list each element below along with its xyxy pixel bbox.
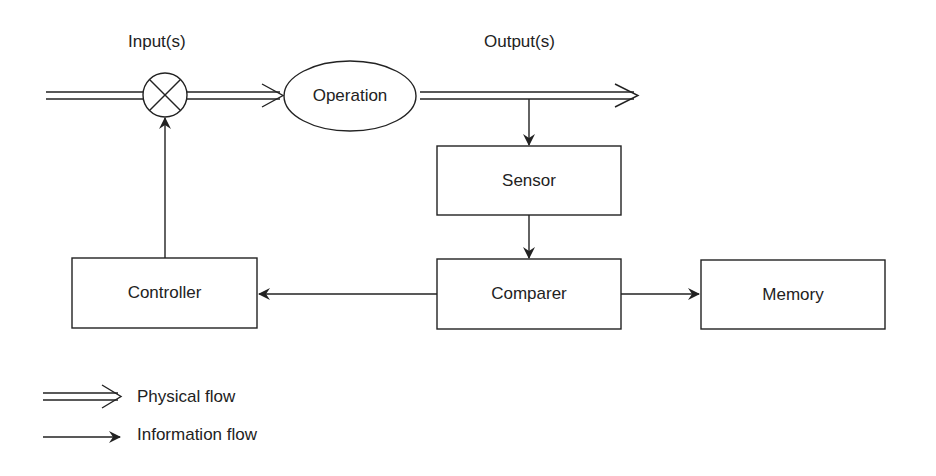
junction-to-operation-flow	[187, 84, 283, 107]
inputs-label: Input(s)	[128, 32, 186, 52]
operation-label: Operation	[284, 61, 416, 131]
legend-physical-flow-icon	[43, 385, 121, 408]
outputs-label: Output(s)	[484, 32, 555, 52]
legend-information-flow-label: Information flow	[137, 425, 257, 445]
legend-physical-flow-label: Physical flow	[137, 387, 235, 407]
controller-label: Controller	[72, 258, 257, 328]
sensor-label: Sensor	[437, 146, 621, 215]
memory-label: Memory	[701, 260, 885, 329]
comparer-label: Comparer	[437, 259, 621, 329]
input-physical-flow	[46, 92, 143, 99]
summing-junction-icon	[143, 73, 187, 117]
